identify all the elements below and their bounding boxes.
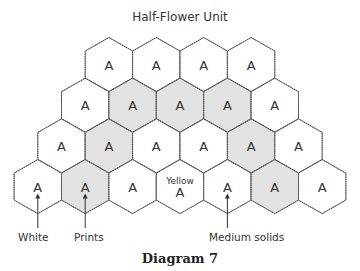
- callout-white: White: [18, 231, 49, 243]
- hexagon-label: A: [223, 180, 232, 195]
- hexagon-label: A: [152, 139, 161, 154]
- hexagon-label: A: [247, 58, 256, 73]
- hexagon-label: A: [176, 185, 185, 200]
- hexagon-label: A: [294, 139, 303, 154]
- hexagon-label: A: [81, 180, 90, 195]
- hexagon-label: A: [199, 139, 208, 154]
- hexagon-label: A: [223, 98, 232, 113]
- callout-medium-solids: Medium solids: [209, 231, 284, 243]
- hexagon-label: A: [270, 98, 279, 113]
- hexagon-label: A: [104, 58, 113, 73]
- hexagon-label: A: [128, 98, 137, 113]
- hexagon-label: A: [81, 98, 90, 113]
- hexagon-label: A: [57, 139, 66, 154]
- hexagon-label: A: [199, 58, 208, 73]
- diagram-caption: Diagram 7: [0, 251, 360, 266]
- hexagon-label: A: [270, 180, 279, 195]
- hexagon-label: A: [152, 58, 161, 73]
- hexagon-label: A: [104, 139, 113, 154]
- hexagon-label: A: [318, 180, 327, 195]
- hexagon-label: A: [176, 98, 185, 113]
- hexagon-grid: AAAAAAAAAAAAAAAAAAYellowAAAA: [0, 0, 360, 271]
- hexagon-label: A: [128, 180, 137, 195]
- hexagon-label: A: [247, 139, 256, 154]
- callout-prints: Prints: [74, 231, 104, 243]
- hexagon-label: A: [33, 180, 42, 195]
